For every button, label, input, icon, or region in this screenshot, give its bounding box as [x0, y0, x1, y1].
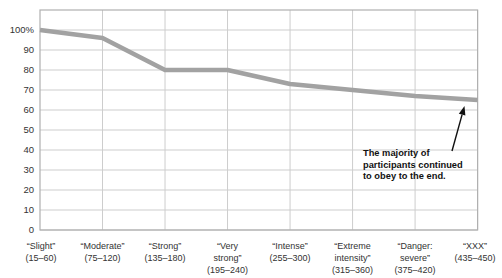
x-category-label: “Intense”: [272, 241, 308, 251]
x-category-label: (135–180): [145, 253, 186, 263]
x-category-label: (195–240): [207, 265, 248, 275]
chart-canvas: 100%9080706050403020100“Slight”(15–60)“M…: [0, 0, 502, 278]
x-category-label: (75–120): [84, 253, 120, 263]
gridlines: [40, 10, 478, 230]
x-category-label: “Moderate”: [81, 241, 125, 251]
x-category-label: “Very: [217, 241, 239, 251]
x-category-label: severe”: [400, 253, 430, 263]
x-category-label: “XXX”: [463, 241, 487, 251]
x-category-label: “Extreme: [334, 241, 371, 251]
x-category-label: strong”: [214, 253, 242, 263]
y-tick-label: 40: [23, 144, 34, 155]
x-category-label: “Danger:: [398, 241, 433, 251]
milgram-obedience-chart: 100%9080706050403020100“Slight”(15–60)“M…: [0, 0, 502, 278]
x-category-label: “Slight”: [27, 241, 56, 251]
annotation-text-line: The majority of: [363, 148, 431, 158]
x-category-label: (435–450): [454, 253, 495, 263]
y-tick-label: 0: [29, 224, 34, 235]
annotation-arrow-shaft: [452, 115, 462, 151]
x-category-label: “Strong”: [149, 241, 182, 251]
y-axis-labels: 100%9080706050403020100: [10, 24, 35, 235]
y-tick-label: 90: [23, 44, 34, 55]
x-category-label: intensity”: [335, 253, 371, 263]
y-tick-label: 60: [23, 104, 34, 115]
x-category-label: (255–300): [270, 253, 311, 263]
y-tick-label: 10: [23, 204, 34, 215]
y-tick-label: 50: [23, 124, 34, 135]
annotation-text-line: to obey to the end.: [363, 171, 446, 181]
annotation-text-line: participants continued: [363, 160, 463, 170]
x-category-label: (15–60): [25, 253, 56, 263]
y-tick-label: 70: [23, 84, 34, 95]
x-category-label: (375–420): [395, 265, 436, 275]
annotation-arrowhead: [459, 106, 466, 116]
y-tick-label: 80: [23, 64, 34, 75]
x-category-label: (315–360): [332, 265, 373, 275]
y-tick-label: 100%: [10, 24, 35, 35]
plot-frame: [40, 10, 478, 230]
x-axis-labels: “Slight”(15–60)“Moderate”(75–120)“Strong…: [25, 241, 495, 275]
y-tick-label: 20: [23, 184, 34, 195]
y-tick-label: 30: [23, 164, 34, 175]
